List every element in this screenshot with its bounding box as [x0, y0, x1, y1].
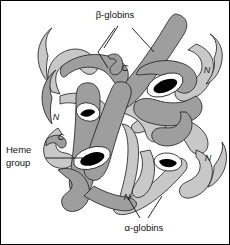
n-terminus-right-label: N — [205, 153, 212, 163]
n-terminus-upper-right-label: N — [204, 65, 211, 75]
c-terminus-left-label: C — [58, 132, 65, 142]
n-terminus-bottom-label: N — [124, 192, 131, 202]
c-terminus-upper-label: C — [122, 63, 129, 73]
n-terminus-left-label: N — [53, 112, 60, 122]
alpha-globins-label: α-globins — [125, 222, 164, 233]
hemoglobin-diagram: β-globins α-globins Heme group N N N N C… — [0, 0, 230, 245]
heme-group-label-line1: Heme — [6, 144, 31, 155]
beta-globins-label: β-globins — [96, 9, 135, 20]
heme-group-label-line2: group — [6, 157, 30, 168]
